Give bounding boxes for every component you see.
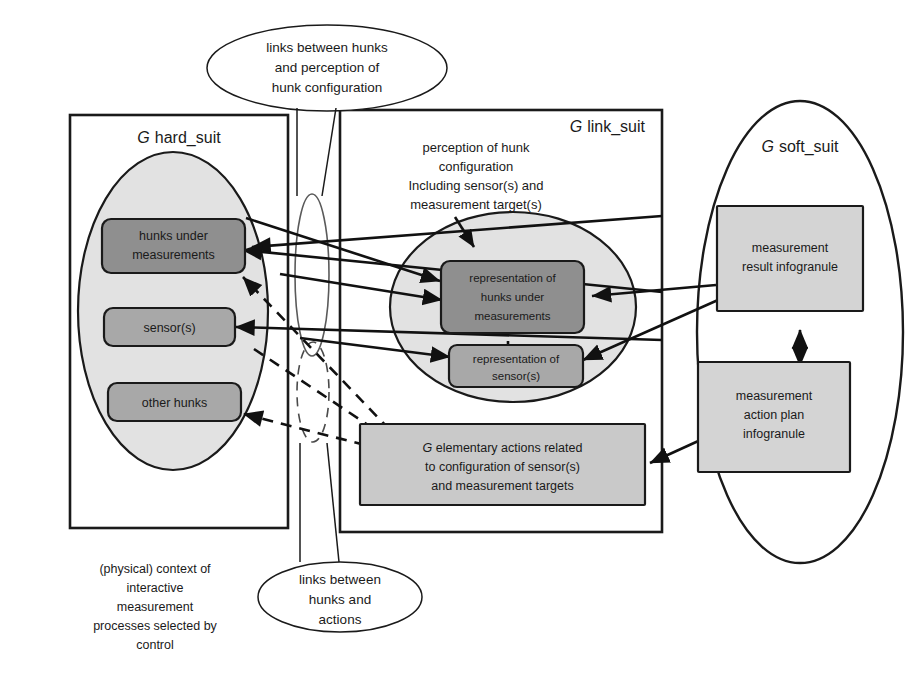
node-representation-hunks-line3: measurements [474,310,550,322]
perception-note-line4: measurement target(s) [410,197,542,212]
callout-top-line3: hunk configuration [272,80,382,95]
node-sensors-label: sensor(s) [143,321,195,335]
node-other-hunks-label: other hunks [142,396,207,410]
callout-top-line2: and perception of [275,60,380,75]
node-representation-sensors-line2: sensor(s) [492,370,540,382]
callout-bottom-line3: actions [319,612,362,627]
soft-suit-title: Gsoft_suit [761,138,839,156]
node-elementary-actions-line2: to configuration of sensor(s) [425,460,580,474]
callout-bottom-line2: hunks and [309,592,371,607]
node-measurement-result-infogranule[interactable] [717,206,863,311]
callout-top-leader-right [322,108,336,196]
callout-top-line1: links between hunks [266,40,388,55]
perception-note-line1: perception of hunk [423,140,530,155]
node-hunks-under-measurements[interactable] [102,219,245,273]
caption-left-line3: measurement [117,600,194,614]
link-hunks-to-representation-a [246,218,440,281]
node-hunks-under-measurements-line1: hunks under [139,229,208,243]
node-measurement-action-plan-line2: action plan [744,408,805,422]
diagram-root: Ghard_suit Glink_suit Gsoft_suit [0,0,912,688]
callout-bottom-leader-right [327,443,339,562]
node-elementary-actions-line3: and measurement targets [431,479,573,493]
perception-note-line3: Including sensor(s) and [408,178,543,193]
caption-left-line4: processes selected by [93,619,217,633]
diagram-canvas: Ghard_suit Glink_suit Gsoft_suit [0,0,912,688]
callout-bottom-line1: links between [299,572,381,587]
hard-suit-title: Ghard_suit [137,129,221,147]
node-elementary-actions-line1: G elementary actions related [423,441,583,455]
node-measurement-result-line1: measurement [752,241,829,255]
hunk-perception-link-ellipse [295,194,329,356]
caption-left-line2: interactive [127,581,184,595]
node-representation-hunks-line1: representation of [469,272,556,284]
perception-note-line2: configuration [439,159,513,174]
hunk-action-link-ellipse [297,342,329,442]
node-hunks-under-measurements-line2: measurements [132,248,215,262]
node-measurement-action-plan-line3: infogranule [743,427,805,441]
node-representation-sensors-line1: representation of [473,353,560,365]
node-measurement-action-plan-line1: measurement [736,389,813,403]
node-measurement-result-line2: result infogranule [742,260,838,274]
caption-left-line1: (physical) context of [99,562,211,576]
node-representation-hunks-line2: hunks under [481,291,544,303]
caption-left-line5: control [136,638,174,652]
link-suit-title: Glink_suit [570,118,646,136]
